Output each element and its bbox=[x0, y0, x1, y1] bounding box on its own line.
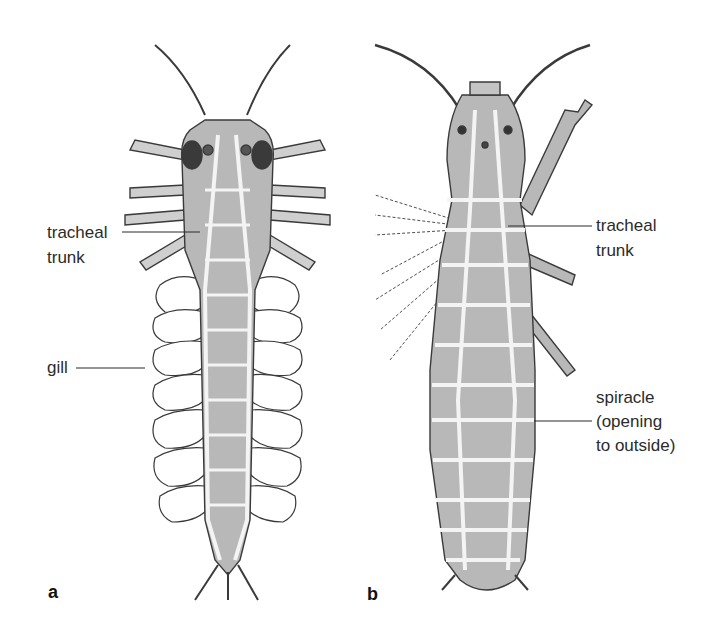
antenna-left-icon bbox=[375, 45, 460, 110]
insect-illustrations bbox=[0, 0, 725, 629]
eye-left-icon bbox=[182, 141, 202, 169]
label-tracheal-trunk-b-line1: tracheal bbox=[596, 215, 656, 237]
larva-a bbox=[125, 45, 330, 600]
insect-b bbox=[375, 45, 592, 590]
antenna-left-icon bbox=[155, 45, 205, 115]
antenna-right-icon bbox=[510, 45, 590, 110]
figure-canvas: tracheal trunk gill a tracheal trunk spi… bbox=[0, 0, 725, 629]
label-spiracle-line1: spiracle bbox=[596, 387, 655, 409]
label-tracheal-trunk-a-line1: tracheal bbox=[47, 222, 107, 244]
label-tracheal-trunk-b-line2: trunk bbox=[596, 240, 634, 262]
antenna-right-icon bbox=[247, 45, 290, 115]
panel-letter-a: a bbox=[48, 582, 58, 603]
label-gill: gill bbox=[47, 357, 68, 379]
panel-letter-b: b bbox=[367, 584, 378, 605]
body-b bbox=[430, 95, 535, 590]
label-tracheal-trunk-a-line2: trunk bbox=[47, 247, 85, 269]
gills-left bbox=[153, 277, 207, 522]
eye-right-icon bbox=[252, 141, 272, 169]
label-spiracle-line2: (opening bbox=[596, 411, 662, 433]
label-spiracle-line3: to outside) bbox=[596, 435, 675, 457]
gills-right bbox=[248, 277, 302, 522]
